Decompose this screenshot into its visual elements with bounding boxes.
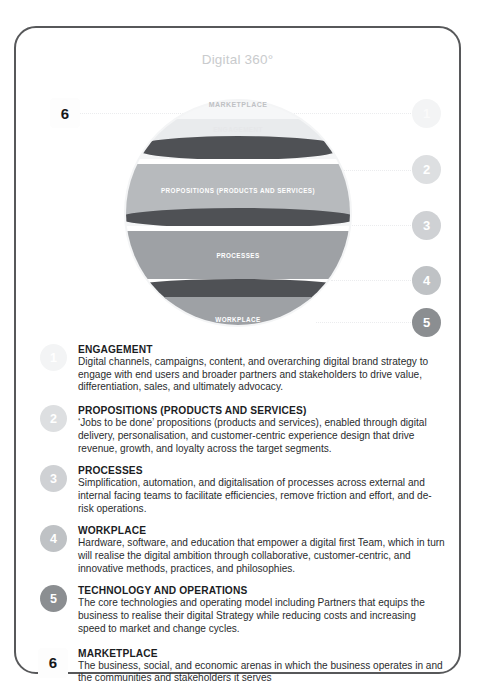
description-bullet-3-number: 3 [50, 472, 57, 486]
description-bullet-4-number: 4 [50, 532, 57, 546]
band-separator-1 [132, 136, 344, 160]
sphere-graphic: MARKETPLACE ENGAGEMENT PROPOSITIONS (PRO… [121, 85, 356, 330]
diagram-marker-1[interactable]: 1 [412, 99, 441, 128]
description-body-6: The business, social, and economic arena… [78, 660, 445, 685]
diagram-marker-5-number: 5 [423, 316, 430, 329]
description-row-engagement: 1 ENGAGEMENT Digital channels, campaigns… [16, 344, 459, 394]
description-body-3: Simplification, automation, and digitali… [78, 477, 445, 515]
description-bullet-4[interactable]: 4 [40, 525, 67, 552]
band-label-marketplace: MARKETPLACE [209, 101, 268, 108]
band-label-workplace: WORKPLACE [215, 316, 260, 323]
description-title-3: PROCESSES [78, 465, 445, 476]
description-title-4: WORKPLACE [78, 525, 445, 536]
description-row-processes: 3 PROCESSES Simplification, automation, … [16, 465, 459, 515]
description-body-1: Digital channels, campaigns, content, an… [78, 356, 445, 394]
description-bullet-6[interactable]: 6 [38, 648, 68, 678]
band-gap-2 [121, 226, 356, 231]
diagram-marker-3[interactable]: 3 [412, 211, 441, 240]
description-bullet-1-number: 1 [50, 351, 57, 365]
description-bullet-2[interactable]: 2 [40, 405, 67, 432]
sphere-diagram: Digital 360° [16, 28, 459, 346]
description-row-propositions: 2 PROPOSITIONS (PRODUCTS AND SERVICES) ‘… [16, 405, 459, 455]
band-label-propositions: PROPOSITIONS (PRODUCTS AND SERVICES) [161, 187, 315, 195]
diagram-marker-6-number: 6 [61, 105, 69, 122]
description-bullet-2-number: 2 [50, 412, 57, 426]
diagram-marker-5[interactable]: 5 [412, 308, 441, 337]
diagram-marker-4-number: 4 [423, 274, 430, 287]
digital-360-card: Digital 360° [14, 26, 461, 674]
description-bullet-1[interactable]: 1 [40, 344, 67, 371]
diagram-marker-3-number: 3 [423, 219, 430, 232]
band-separator-2 [121, 208, 356, 228]
description-row-technology: 5 TECHNOLOGY AND OPERATIONS The core tec… [16, 585, 459, 635]
description-bullet-6-number: 6 [49, 654, 57, 671]
description-row-workplace: 4 WORKPLACE Hardware, software, and educ… [16, 525, 459, 575]
description-row-marketplace: 6 MARKETPLACE The business, social, and … [16, 648, 459, 698]
description-body-4: Hardware, software, and education that e… [78, 537, 445, 575]
description-body-5: The core technologies and operating mode… [78, 597, 445, 635]
diagram-title: Digital 360° [16, 52, 459, 67]
diagram-marker-6[interactable]: 6 [50, 98, 80, 128]
band-label-processes: PROCESSES [216, 252, 259, 259]
diagram-marker-1-number: 1 [423, 107, 430, 120]
description-title-5: TECHNOLOGY AND OPERATIONS [78, 585, 445, 596]
description-bullet-5-number: 5 [50, 592, 57, 606]
description-title-2: PROPOSITIONS (PRODUCTS AND SERVICES) [78, 405, 445, 416]
band-label-engagement: ENGAGEMENT [213, 126, 263, 133]
description-bullet-5[interactable]: 5 [40, 585, 67, 612]
band-gap-1 [121, 159, 356, 164]
description-body-2: ‘Jobs to be done’ propositions (products… [78, 417, 445, 455]
description-list: 1 ENGAGEMENT Digital channels, campaigns… [16, 344, 459, 698]
description-title-1: ENGAGEMENT [78, 344, 445, 355]
description-title-6: MARKETPLACE [78, 648, 445, 659]
sphere-svg: MARKETPLACE ENGAGEMENT PROPOSITIONS (PRO… [121, 85, 356, 330]
diagram-marker-2-number: 2 [423, 163, 430, 176]
description-bullet-3[interactable]: 3 [40, 465, 67, 492]
diagram-marker-4[interactable]: 4 [412, 266, 441, 295]
diagram-marker-2[interactable]: 2 [412, 155, 441, 184]
